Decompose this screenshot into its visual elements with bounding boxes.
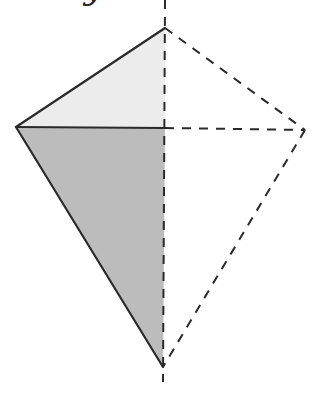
horizontal-solid-diagonal [16,127,165,128]
kite-diagram [0,0,313,396]
edge-top-right-dashed [165,28,305,130]
edge-bottom-right-dashed [163,130,305,367]
horizontal-dashed-diagonal [165,128,305,130]
